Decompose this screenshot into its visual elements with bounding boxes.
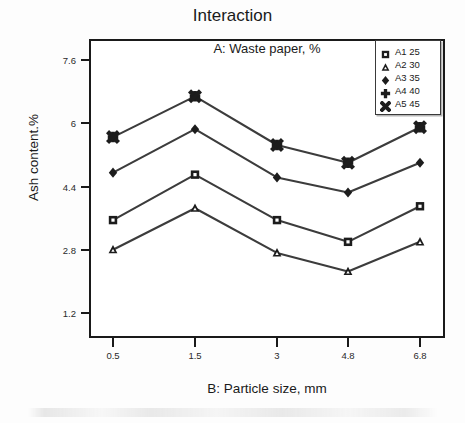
y-tick-label: 2.8 bbox=[42, 244, 76, 255]
legend-item: A5 45 bbox=[380, 97, 437, 110]
triangle-icon bbox=[380, 59, 391, 70]
y-tick-label: 4.4 bbox=[42, 181, 76, 192]
x-tick-label: 0.5 bbox=[88, 350, 138, 361]
legend-item: A3 35 bbox=[380, 71, 437, 84]
legend-item: A4 40 bbox=[380, 84, 437, 97]
diamond-icon bbox=[380, 72, 391, 83]
legend-item-label: A1 25 bbox=[395, 46, 420, 57]
x-tick-mark bbox=[419, 338, 421, 347]
chart-figure: Interaction A: Waste paper, % Ash conten… bbox=[0, 0, 465, 423]
x-tick-label: 6.8 bbox=[395, 350, 445, 361]
y-tick-mark bbox=[81, 122, 90, 124]
x-tick-label: 3 bbox=[252, 350, 302, 361]
legend-item-label: A5 45 bbox=[395, 98, 420, 109]
chart-title: Interaction bbox=[0, 6, 465, 26]
square-icon bbox=[380, 46, 391, 57]
cross-icon bbox=[380, 98, 391, 109]
y-tick-mark bbox=[81, 59, 90, 61]
legend-item: A1 25 bbox=[380, 45, 437, 58]
y-tick-mark bbox=[81, 249, 90, 251]
y-tick-mark bbox=[81, 186, 90, 188]
x-axis-title: B: Particle size, mm bbox=[89, 381, 445, 396]
x-tick-mark bbox=[112, 338, 114, 347]
legend-item-label: A3 35 bbox=[395, 72, 420, 83]
y-tick-label: 6 bbox=[42, 118, 76, 129]
plus-diamond-icon bbox=[380, 85, 391, 96]
x-tick-mark bbox=[194, 338, 196, 347]
y-tick-label: 7.6 bbox=[42, 55, 76, 66]
y-tick-label: 1.2 bbox=[42, 308, 76, 319]
x-tick-mark bbox=[276, 338, 278, 347]
caption-artifact bbox=[28, 408, 438, 417]
legend-item: A2 30 bbox=[380, 58, 437, 71]
chart-legend: A1 25A2 30A3 35A4 40A5 45 bbox=[375, 40, 441, 115]
y-axis-title: Ash content.% bbox=[26, 73, 41, 243]
x-tick-label: 4.8 bbox=[323, 350, 373, 361]
legend-item-label: A4 40 bbox=[395, 85, 420, 96]
x-tick-label: 1.5 bbox=[170, 350, 220, 361]
x-tick-mark bbox=[347, 338, 349, 347]
y-tick-mark bbox=[81, 312, 90, 314]
legend-item-label: A2 30 bbox=[395, 59, 420, 70]
